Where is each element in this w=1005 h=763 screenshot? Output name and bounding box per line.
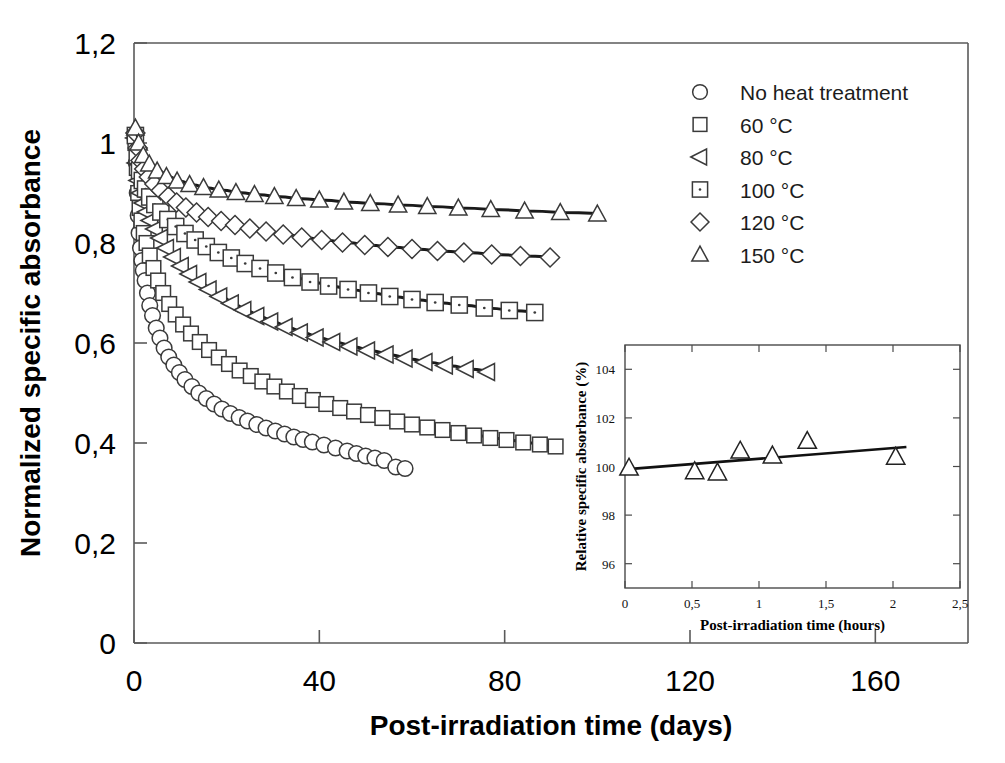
data-point-marker <box>435 423 450 438</box>
data-point-marker <box>420 420 435 435</box>
data-point-marker <box>482 245 501 264</box>
legend-item[interactable]: 120 °C <box>691 211 804 234</box>
marker-center-dot <box>483 307 486 310</box>
data-point-marker <box>511 246 530 265</box>
marker-center-dot <box>205 245 208 248</box>
inset-y-tick-label: 96 <box>602 557 616 572</box>
inset-y-tick-label: 102 <box>596 411 616 426</box>
y-axis-tick-label: 0,4 <box>74 427 116 460</box>
inset-y-axis-title: Relative specific absorbance (%) <box>573 362 590 572</box>
marker-center-dot <box>291 276 294 279</box>
data-point-marker <box>375 411 390 426</box>
data-point-marker <box>541 248 560 267</box>
y-axis-tick-label: 0 <box>99 627 116 660</box>
inset-y-tick-label: 104 <box>596 362 616 377</box>
data-point-marker <box>358 342 375 359</box>
data-point-marker <box>428 241 447 260</box>
marker-center-dot <box>434 301 437 304</box>
data-point-marker <box>454 243 473 262</box>
data-point-marker <box>478 364 495 381</box>
marker-center-dot <box>274 272 277 275</box>
data-point-marker <box>397 461 413 477</box>
data-point-marker <box>378 237 397 256</box>
data-point-marker <box>548 439 563 454</box>
x-axis-tick-label: 0 <box>126 664 143 697</box>
data-point-marker <box>395 350 412 367</box>
y-axis-tick-label: 0,2 <box>74 527 116 560</box>
marker-center-dot <box>533 311 536 314</box>
y-axis-tick-label: 1 <box>99 127 116 160</box>
legend-label: 150 °C <box>740 244 804 267</box>
marker-center-dot <box>244 262 247 265</box>
data-point-marker <box>319 397 334 412</box>
data-point-marker <box>467 428 482 443</box>
marker-center-dot <box>309 281 312 284</box>
data-point-marker <box>390 414 405 429</box>
figure-container: 00,20,40,60,811,204080120160Normalized s… <box>0 0 1005 763</box>
legend-label: 120 °C <box>740 211 804 234</box>
data-point-marker <box>333 233 352 252</box>
x-axis-tick-label: 120 <box>665 664 715 697</box>
legend-label: 100 °C <box>740 179 804 202</box>
data-point-marker <box>405 417 420 432</box>
legend-marker <box>692 246 708 261</box>
legend: No heat treatment60 °C80 °C100 °C120 °C1… <box>691 81 908 267</box>
data-point-marker <box>516 435 531 450</box>
y-axis-tick-label: 1,2 <box>74 27 116 60</box>
marker-center-dot <box>259 267 262 270</box>
legend-item[interactable]: 100 °C <box>692 179 804 202</box>
data-point-marker <box>312 230 331 249</box>
legend-item[interactable]: 150 °C <box>692 244 805 267</box>
data-point-marker <box>274 225 293 244</box>
data-point-marker <box>306 393 321 408</box>
inset-x-tick-label: 1,5 <box>818 596 834 611</box>
marker-center-dot <box>699 188 702 191</box>
legend-item[interactable]: 80 °C <box>691 146 793 169</box>
legend-label: No heat treatment <box>740 81 908 104</box>
legend-item[interactable]: 60 °C <box>693 114 793 137</box>
legend-marker <box>693 118 707 132</box>
inset-x-tick-label: 0 <box>622 596 629 611</box>
inset-x-tick-label: 2 <box>890 596 897 611</box>
data-point-marker <box>340 338 357 355</box>
inset-x-tick-label: 1 <box>756 596 763 611</box>
legend-item[interactable]: No heat treatment <box>693 81 909 104</box>
data-point-marker <box>402 239 421 258</box>
data-point-marker <box>361 408 376 423</box>
legend-label: 80 °C <box>740 146 793 169</box>
data-point-marker <box>347 404 362 419</box>
data-point-marker <box>483 431 498 446</box>
marker-center-dot <box>230 257 233 260</box>
series-group <box>127 127 543 320</box>
inset-x-tick-label: 2,5 <box>952 596 968 611</box>
data-point-marker <box>323 334 340 351</box>
inset-y-tick-label: 100 <box>596 460 616 475</box>
marker-center-dot <box>194 239 197 242</box>
marker-center-dot <box>184 232 187 235</box>
inset-x-tick-label: 0,5 <box>684 596 700 611</box>
data-point-marker <box>436 357 453 374</box>
marker-center-dot <box>367 292 370 295</box>
y-axis-tick-label: 0,8 <box>74 227 116 260</box>
data-point-marker <box>355 235 374 254</box>
data-point-marker <box>533 437 548 452</box>
data-point-marker <box>306 329 323 346</box>
y-axis-tick-label: 0,6 <box>74 327 116 360</box>
marker-center-dot <box>458 304 461 307</box>
data-point-marker <box>456 361 473 378</box>
x-axis-tick-label: 80 <box>488 664 521 697</box>
marker-center-dot <box>411 298 414 301</box>
inset-y-tick-label: 98 <box>602 508 615 523</box>
data-point-marker <box>451 426 466 441</box>
chart-canvas: 00,20,40,60,811,204080120160Normalized s… <box>0 0 1005 763</box>
marker-center-dot <box>217 251 220 254</box>
data-point-marker <box>291 324 308 341</box>
data-point-marker <box>240 219 259 238</box>
marker-center-dot <box>347 288 350 291</box>
y-axis-title: Normalized specific absorbance <box>15 129 46 557</box>
legend-marker <box>691 213 709 231</box>
marker-center-dot <box>508 309 511 312</box>
marker-center-dot <box>388 295 391 298</box>
inset-chart: 969810010210400,511,522,5Relative specif… <box>573 345 968 634</box>
legend-marker <box>691 149 707 165</box>
